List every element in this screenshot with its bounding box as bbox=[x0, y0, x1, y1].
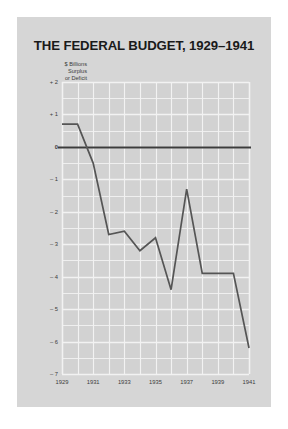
x-tick-label: 1939 bbox=[211, 379, 224, 385]
y-tick-label: – 2 bbox=[50, 209, 58, 215]
y-tick-label: – 4 bbox=[50, 274, 58, 280]
y-tick-label: + 2 bbox=[50, 79, 58, 85]
x-tick-label: 1935 bbox=[149, 379, 162, 385]
x-tick-label: 1929 bbox=[56, 379, 69, 385]
y-tick-label: – 3 bbox=[50, 241, 58, 247]
y-tick-label: + 1 bbox=[50, 111, 58, 117]
plot-canvas bbox=[62, 82, 249, 374]
grid-horizontal-lines bbox=[62, 83, 249, 375]
y-tick-label: 0 bbox=[55, 144, 58, 150]
plot-area: + 2+ 10– 1– 2– 3– 4– 5– 6– 7 19291931193… bbox=[62, 82, 249, 374]
y-axis-label-line-2: Surplus bbox=[31, 68, 87, 75]
x-tick-label: 1941 bbox=[243, 379, 256, 385]
y-tick-label: – 1 bbox=[50, 176, 58, 182]
y-axis-label: $ Billions Surplus or Deficit bbox=[31, 61, 87, 83]
y-tick-label: – 6 bbox=[50, 339, 58, 345]
x-tick-label: 1931 bbox=[87, 379, 100, 385]
chart-title: THE FEDERAL BUDGET, 1929–1941 bbox=[17, 38, 271, 53]
budget-line-series bbox=[62, 124, 249, 348]
y-axis-label-line-1: $ Billions bbox=[31, 61, 87, 68]
grid-vertical-lines bbox=[63, 82, 250, 374]
y-tick-label: – 5 bbox=[50, 306, 58, 312]
chart-figure: THE FEDERAL BUDGET, 1929–1941 $ Billions… bbox=[17, 17, 271, 407]
x-tick-label: 1937 bbox=[180, 379, 193, 385]
x-tick-label: 1933 bbox=[118, 379, 131, 385]
y-tick-label: – 7 bbox=[50, 371, 58, 377]
